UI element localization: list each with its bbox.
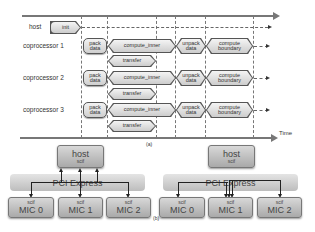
task-transfer: transfer bbox=[108, 88, 156, 100]
arrow-up-icon bbox=[59, 168, 63, 172]
top-axis-arrow bbox=[22, 15, 274, 17]
sync-line bbox=[81, 16, 82, 138]
task-compute-boundary: computeboundary bbox=[206, 70, 253, 86]
connector bbox=[178, 182, 228, 183]
task-compute-inner: compute_inner bbox=[108, 39, 176, 53]
task-compute-inner: compute_inner bbox=[108, 103, 176, 117]
host-idle-line bbox=[82, 27, 268, 28]
time-axis-arrow bbox=[20, 137, 272, 139]
connector bbox=[80, 170, 81, 196]
arrow-up-icon bbox=[95, 168, 99, 172]
time-axis-label: Time bbox=[279, 130, 292, 136]
task-transfer: transfer bbox=[108, 55, 156, 67]
arrow-head-icon bbox=[266, 44, 270, 48]
row-label-host: host bbox=[29, 23, 41, 30]
mic-1-box: scif MIC 1 bbox=[58, 197, 103, 218]
task-unpack-data: unpackdata bbox=[176, 70, 206, 86]
caption-a: (a) bbox=[146, 141, 152, 147]
task-pack-data: packdata bbox=[83, 70, 107, 86]
sync-line bbox=[107, 16, 108, 138]
task-label: init bbox=[62, 25, 69, 31]
task-unpack-data: unpackdata bbox=[176, 38, 206, 54]
sync-line bbox=[253, 16, 254, 138]
mic-2-box: scif MIC 2 bbox=[106, 197, 151, 218]
task-compute-boundary: computeboundary bbox=[206, 102, 253, 118]
task-compute-boundary: computeboundary bbox=[206, 38, 253, 54]
host-box: host scif bbox=[57, 145, 104, 168]
arrow-head-icon bbox=[266, 76, 270, 80]
arrow-head-icon bbox=[268, 25, 272, 29]
mic-0-box: scif MIC 0 bbox=[8, 197, 54, 218]
arrow-head-icon bbox=[266, 108, 270, 112]
row-label-coprocessor-3: coprocessor 3 bbox=[23, 106, 64, 113]
host-box: host scif bbox=[208, 145, 255, 168]
row-label-coprocessor-1: coprocessor 1 bbox=[23, 42, 64, 49]
connector bbox=[230, 180, 280, 181]
mic-0-box: scif MIC 0 bbox=[159, 197, 205, 218]
task-pack-data: packdata bbox=[83, 102, 107, 118]
task-init: init bbox=[50, 21, 81, 34]
task-compute-inner: compute_inner bbox=[108, 71, 176, 85]
task-unpack-data: unpackdata bbox=[176, 102, 206, 118]
mic-2-box: scif MIC 2 bbox=[257, 197, 302, 218]
task-pack-data: packdata bbox=[83, 38, 107, 54]
task-transfer: transfer bbox=[108, 120, 156, 132]
arrow-up-icon bbox=[78, 168, 82, 172]
mic-1-box: scif MIC 1 bbox=[208, 197, 253, 218]
row-label-coprocessor-2: coprocessor 2 bbox=[23, 74, 64, 81]
